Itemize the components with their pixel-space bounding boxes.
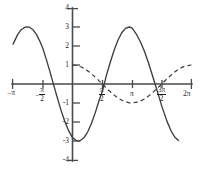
fraction-denominator: 2 [157,94,166,103]
fraction-numerator: π [99,87,105,95]
fraction-numerator: π [39,87,45,95]
y-tick-label-neg-1: -1 [53,99,69,107]
y-tick-label-neg-4: -4 [53,156,69,164]
x-tick-label-neg-pi-text: π [11,88,15,97]
fraction-pi-over-2: π2 [99,87,105,104]
plot-canvas [0,0,200,170]
fraction-neg-pi-over-2: π2 [39,87,45,104]
x-tick-label-neg-pi: −π [7,89,15,97]
y-tick-label-2: 2 [56,42,69,50]
y-tick-label-4: 4 [56,4,69,12]
trigonometric-graph-figure: −π −π2 π2 π 3π2 2π 4 3 2 1 -1 -2 -3 -4 [0,0,200,170]
x-tick-label-pi-text: π [130,89,134,98]
y-tick-label-1: 1 [56,61,69,69]
x-tick-label-pi-over-2: π2 [99,87,105,104]
x-tick-label-two-pi: 2π [183,90,191,98]
y-tick-label-neg-2: -2 [53,118,69,126]
y-tick-label-3: 3 [56,23,69,31]
y-tick-label-neg-3: -3 [53,137,69,145]
x-tick-label-three-pi-over-2: 3π2 [157,87,166,104]
fraction-denominator: 2 [99,94,105,103]
fraction-numerator: 3π [157,87,166,95]
fraction-three-pi-over-2: 3π2 [157,87,166,104]
x-tick-label-pi: π [130,90,134,98]
x-tick-label-neg-pi-over-2: −π2 [35,87,45,104]
fraction-denominator: 2 [39,94,45,103]
x-tick-label-two-pi-text: 2π [183,89,191,98]
